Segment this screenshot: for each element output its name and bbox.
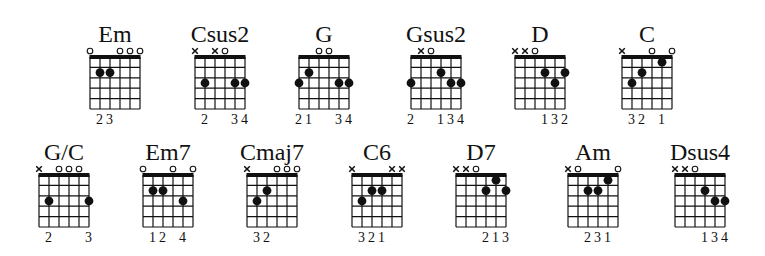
finger-number: 3	[502, 230, 509, 246]
fretboard-grid	[346, 162, 408, 232]
fretboard-grid	[562, 162, 624, 232]
open-string-icon	[649, 48, 655, 54]
finger-number: 4	[721, 230, 728, 246]
muted-string-icon	[212, 48, 218, 54]
muted-string-icon	[682, 166, 688, 172]
finger-number: 2	[561, 112, 568, 128]
finger-dot	[711, 197, 720, 206]
open-string-icon	[66, 166, 72, 172]
finger-dot	[407, 79, 416, 88]
fretboard-grid	[509, 44, 571, 114]
open-string-icon	[575, 166, 581, 172]
finger-number: 4	[241, 112, 248, 128]
finger-dot	[96, 68, 105, 77]
chord-name: Am	[533, 140, 653, 164]
chord-name: Em7	[108, 140, 228, 164]
finger-number: 2	[482, 230, 489, 246]
open-string-icon	[615, 166, 621, 172]
open-string-icon	[284, 166, 290, 172]
finger-dot	[305, 68, 314, 77]
nut	[515, 55, 566, 59]
finger-dot	[584, 186, 593, 195]
fretboard-grid	[405, 44, 467, 114]
nut	[195, 55, 246, 59]
finger-number: 3	[551, 112, 558, 128]
fretboard-grid	[33, 162, 95, 232]
finger-dot	[201, 79, 210, 88]
finger-dot	[345, 79, 354, 88]
open-string-icon	[76, 166, 82, 172]
open-string-icon	[87, 48, 93, 54]
finger-dot	[149, 186, 158, 195]
finger-dot	[378, 186, 387, 195]
finger-dot	[482, 186, 491, 195]
open-string-icon	[669, 48, 675, 54]
open-string-icon	[294, 166, 300, 172]
chord-name: D7	[421, 140, 541, 164]
fretboard-grid	[189, 44, 251, 114]
finger-number: 1	[378, 230, 385, 246]
muted-string-icon	[453, 166, 459, 172]
open-string-icon	[56, 166, 62, 172]
finger-dot	[638, 68, 647, 77]
nut	[456, 173, 507, 177]
finger-number: 1	[305, 112, 312, 128]
chord-name: D	[480, 22, 600, 46]
fretboard-grid	[669, 162, 731, 232]
finger-dot	[551, 79, 560, 88]
open-string-icon	[190, 166, 196, 172]
open-string-icon	[473, 166, 479, 172]
finger-number: 3	[594, 230, 601, 246]
chord-name: Em	[55, 22, 175, 46]
nut	[39, 173, 90, 177]
open-string-icon	[170, 166, 176, 172]
finger-dot	[358, 197, 367, 206]
finger-dot	[106, 68, 115, 77]
nut	[352, 173, 403, 177]
open-string-icon	[326, 48, 332, 54]
muted-string-icon	[349, 166, 355, 172]
finger-dot	[457, 79, 466, 88]
finger-dot	[658, 58, 667, 67]
finger-number: 2	[584, 230, 591, 246]
finger-dot	[368, 186, 377, 195]
nut	[411, 55, 462, 59]
chord-name: Dsus4	[640, 140, 760, 164]
finger-dot	[447, 79, 456, 88]
open-string-icon	[428, 48, 434, 54]
finger-number: 1	[541, 112, 548, 128]
finger-dot	[295, 79, 304, 88]
finger-dot	[263, 186, 272, 195]
open-string-icon	[117, 48, 123, 54]
finger-dot	[701, 186, 710, 195]
finger-dot	[721, 197, 730, 206]
open-string-icon	[274, 166, 280, 172]
finger-number: 1	[149, 230, 156, 246]
finger-dot	[241, 79, 250, 88]
finger-dot	[231, 79, 240, 88]
finger-number: 4	[179, 230, 186, 246]
finger-number: 3	[358, 230, 365, 246]
finger-number: 3	[253, 230, 260, 246]
finger-number: 3	[711, 230, 718, 246]
finger-number: 1	[437, 112, 444, 128]
muted-string-icon	[672, 166, 678, 172]
finger-number: 2	[45, 230, 52, 246]
finger-number: 2	[638, 112, 645, 128]
muted-string-icon	[619, 48, 625, 54]
fretboard-grid	[137, 162, 199, 232]
muted-string-icon	[244, 166, 250, 172]
muted-string-icon	[389, 166, 395, 172]
muted-string-icon	[512, 48, 518, 54]
finger-number: 3	[447, 112, 454, 128]
finger-number: 2	[368, 230, 375, 246]
finger-dot	[502, 186, 511, 195]
finger-number: 3	[335, 112, 342, 128]
finger-number: 3	[85, 230, 92, 246]
chord-name: G/C	[4, 140, 124, 164]
open-string-icon	[137, 48, 143, 54]
chord-name: G	[264, 22, 384, 46]
fretboard-grid	[293, 44, 355, 114]
muted-string-icon	[463, 166, 469, 172]
muted-string-icon	[565, 166, 571, 172]
